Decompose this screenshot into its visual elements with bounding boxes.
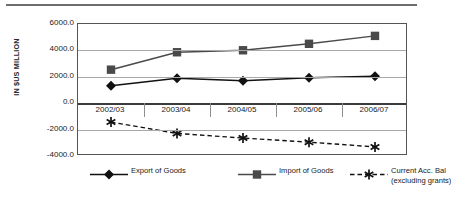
series-layer [78,24,408,156]
gridline [78,50,406,51]
square-marker-icon [237,166,277,177]
x-tick-label: 2003/04 [143,104,209,115]
y-tick-label: -4000.0 [32,150,74,160]
x-tick-label: 2004/05 [209,104,275,115]
series-diamond [106,71,380,91]
y-tick-label: -2000.0 [32,124,74,134]
y-axis-tick-labels: 6000.04000.02000.00.0-2000.0-4000.0 [30,0,74,200]
square-marker-icon [253,170,261,178]
y-tick-label: 0.0 [32,97,74,107]
legend-label: Current Acc. Bal(excluding grants) [391,166,451,186]
x-tick-label: 2006/07 [341,104,407,115]
y-tick-label: 4000.0 [32,44,74,54]
diamond-marker-icon [106,81,116,91]
x-tick-label: 2002/03 [77,104,143,115]
asterisk-marker-icon [371,142,380,152]
square-marker-icon [173,48,181,56]
y-tick-label: 6000.0 [32,18,74,28]
x-tick-label: 2005/06 [275,104,341,115]
y-axis-title: IN $US MILLION [10,22,24,112]
gridline [78,77,406,78]
y-tick-label: 2000.0 [32,71,74,81]
square-marker-icon [107,65,115,73]
chart-legend: Export of GoodsImport of GoodsCurrent Ac… [77,166,412,196]
series-asterisk [107,117,380,152]
diamond-marker-icon [172,73,182,83]
legend-label-line2: (excluding grants) [391,176,451,186]
legend-label: Export of Goods [131,166,186,176]
square-marker-icon [305,40,313,48]
square-marker-icon [371,32,379,40]
asterisk-marker-icon [349,166,389,177]
diamond-marker-icon [104,170,114,180]
legend-label: Import of Goods [279,166,333,176]
gridline [78,130,406,131]
series-square [107,32,379,74]
plot-area [77,23,407,155]
diamond-marker-icon [89,166,129,177]
